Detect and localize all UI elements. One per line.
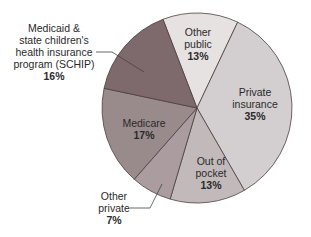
other-private-name-0: Other xyxy=(92,190,136,202)
out-of-pocket-name-1: pocket xyxy=(188,167,234,179)
medicare-pct: 17% xyxy=(114,129,174,141)
other-public-pct: 13% xyxy=(176,50,220,62)
other-private-pct: 7% xyxy=(92,214,136,226)
private-insurance-pct: 35% xyxy=(222,110,288,122)
private-insurance-name-1: insurance xyxy=(222,98,288,110)
medicaid-pct: 16% xyxy=(2,70,106,82)
label-out-of-pocket: Out of pocket 13% xyxy=(188,155,234,191)
medicaid-name-2: health insurance xyxy=(2,46,106,58)
label-other-public: Other public 13% xyxy=(176,26,220,62)
label-medicare: Medicare 17% xyxy=(114,117,174,141)
medicaid-name-0: Medicaid & xyxy=(2,22,106,34)
medicaid-name-1: state children's xyxy=(2,34,106,46)
label-private-insurance: Private insurance 35% xyxy=(222,86,288,122)
other-public-name-1: public xyxy=(176,38,220,50)
out-of-pocket-pct: 13% xyxy=(188,179,234,191)
private-insurance-name-0: Private xyxy=(222,86,288,98)
other-private-name-1: private xyxy=(92,202,136,214)
label-medicaid: Medicaid & state children's health insur… xyxy=(2,22,106,82)
label-other-private: Other private 7% xyxy=(92,190,136,226)
other-public-name-0: Other xyxy=(176,26,220,38)
out-of-pocket-name-0: Out of xyxy=(188,155,234,167)
medicare-name-0: Medicare xyxy=(114,117,174,129)
medicaid-name-3: program (SCHIP) xyxy=(2,58,106,70)
